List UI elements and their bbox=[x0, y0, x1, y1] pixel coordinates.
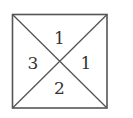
region-right-label: 1 bbox=[81, 53, 92, 73]
region-bottom-label: 2 bbox=[54, 78, 65, 98]
region-left-label: 3 bbox=[28, 53, 39, 73]
diagram-canvas: 1 1 2 3 bbox=[0, 0, 133, 118]
region-top-label: 1 bbox=[54, 28, 65, 48]
